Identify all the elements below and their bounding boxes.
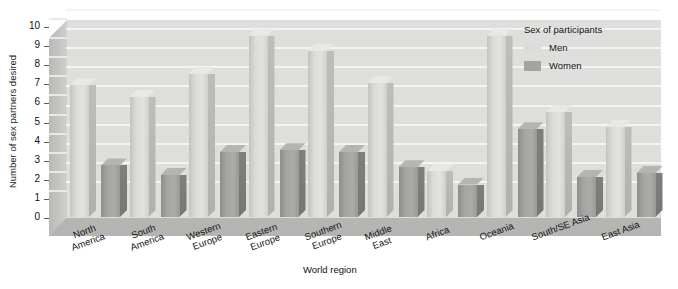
bar-side-face [149, 97, 156, 217]
gridline-side [49, 114, 67, 116]
legend-rows: MenWomen [524, 42, 670, 71]
bar-side-face [89, 85, 96, 217]
bar-side-face [418, 167, 425, 217]
bar-women [339, 152, 358, 217]
bar-face [339, 152, 358, 217]
bar-side-face [596, 177, 603, 217]
bar-face [518, 129, 537, 217]
bar-women [458, 185, 477, 217]
legend-title: Sex of participants [524, 24, 670, 35]
bar-side-face [565, 112, 572, 217]
bar-side-face [208, 74, 215, 217]
bar-face [130, 97, 149, 217]
bar-men [487, 36, 506, 217]
bar-side-face [506, 36, 513, 217]
y-tick-label: 0 [22, 211, 40, 222]
y-axis-title: Number of sex partners desired [7, 22, 18, 222]
bar-women [161, 175, 180, 217]
y-tick-label: 6 [22, 96, 40, 107]
bar-side-face [327, 51, 334, 217]
bar-side-face [656, 173, 663, 217]
y-tick-label: 3 [22, 154, 40, 165]
y-tick-label: 2 [22, 173, 40, 184]
y-tick-label: 10 [22, 20, 40, 31]
bar-men [130, 97, 149, 217]
bar-face [637, 173, 656, 217]
bar-side-face [268, 36, 275, 217]
y-tick-label: 5 [22, 116, 40, 127]
y-tick-label: 8 [22, 58, 40, 69]
bar-face [487, 36, 506, 217]
gridline-side [49, 56, 67, 58]
bar-men [368, 83, 387, 217]
bar-side-face [537, 129, 544, 217]
bar-side-face [358, 152, 365, 217]
bar-men [308, 51, 327, 217]
legend: Sex of participants MenWomen [524, 24, 670, 78]
bar-women [518, 129, 537, 217]
bar-face [189, 74, 208, 217]
bar-side-face [180, 175, 187, 217]
bar-side-face [299, 150, 306, 217]
bar-side-face [387, 83, 394, 217]
bar-side-face [120, 165, 127, 217]
bar-women [220, 152, 239, 217]
gridline-side [49, 94, 67, 96]
bar-women [637, 173, 656, 217]
x-axis-title: World region [303, 264, 357, 275]
gridline-side [49, 152, 67, 154]
y-tick-label: 4 [22, 135, 40, 146]
gridline [66, 9, 661, 11]
bar-women [399, 167, 418, 217]
legend-swatch-women [524, 61, 541, 71]
bar-women [280, 150, 299, 217]
y-tick-label: 1 [22, 192, 40, 203]
bar-men [189, 74, 208, 217]
bar-chart: Number of sex partners desired World reg… [0, 0, 678, 289]
legend-item: Women [524, 60, 670, 71]
bar-face [70, 85, 89, 217]
bar-face [308, 51, 327, 217]
legend-item: Men [524, 42, 670, 53]
gridline-side [49, 171, 67, 173]
bar-men [70, 85, 89, 217]
gridline-side [49, 18, 67, 20]
bar-face [368, 83, 387, 217]
bar-men [606, 127, 625, 217]
bar-men [427, 171, 446, 217]
gridline-side [49, 190, 67, 192]
gridline [66, 85, 661, 87]
bar-men [546, 112, 565, 217]
plot-left-wall [49, 20, 67, 236]
bar-face [546, 112, 565, 217]
y-tick-label: 7 [22, 77, 40, 88]
bar-face [161, 175, 180, 217]
gridline-side [49, 133, 67, 135]
legend-label: Men [549, 42, 567, 53]
bar-face [606, 127, 625, 217]
bar-face [458, 185, 477, 217]
bar-side-face [625, 127, 632, 217]
bar-face [101, 165, 120, 217]
bar-face [249, 36, 268, 217]
bar-side-face [239, 152, 246, 217]
bar-face [280, 150, 299, 217]
bar-face [399, 167, 418, 217]
bar-women [101, 165, 120, 217]
y-tick-label: 9 [22, 39, 40, 50]
bar-face [427, 171, 446, 217]
legend-label: Women [549, 60, 582, 71]
bar-face [220, 152, 239, 217]
gridline-side [49, 75, 67, 77]
bar-men [249, 36, 268, 217]
legend-swatch-men [524, 43, 541, 53]
bar-side-face [446, 171, 453, 217]
gridline-side [49, 37, 67, 39]
